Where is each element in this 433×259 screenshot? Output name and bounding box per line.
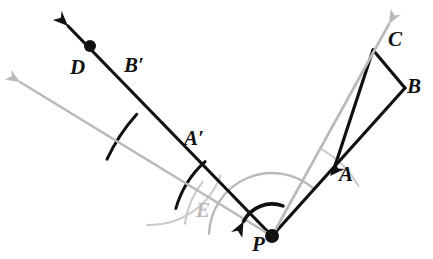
- rotation-arrowhead: [231, 221, 243, 237]
- label-D: D: [70, 57, 85, 78]
- label-Bp: B′: [124, 55, 144, 76]
- label-P: P: [252, 234, 265, 255]
- label-B: B: [407, 76, 421, 97]
- label-Ap: A′: [184, 128, 204, 149]
- point-marker-D: [84, 40, 96, 52]
- rotation-direction-arrow: [243, 204, 282, 221]
- label-A: A: [339, 164, 353, 185]
- ray-P-to-C-gray: [272, 24, 389, 236]
- edge-A-to-C: [333, 50, 373, 172]
- label-E: E: [196, 200, 210, 221]
- arrowhead-ray-PE: [5, 70, 20, 82]
- label-C: C: [388, 29, 402, 50]
- point-marker-P: [265, 229, 279, 243]
- arrowhead-ray-PD: [53, 11, 68, 26]
- geometry-canvas: [0, 0, 433, 259]
- arc-layer: [107, 114, 359, 234]
- geometry-figure: DB′A′EPACB: [0, 0, 433, 259]
- arrowhead-ray-PC: [389, 9, 401, 24]
- edge-C-to-B: [373, 50, 405, 88]
